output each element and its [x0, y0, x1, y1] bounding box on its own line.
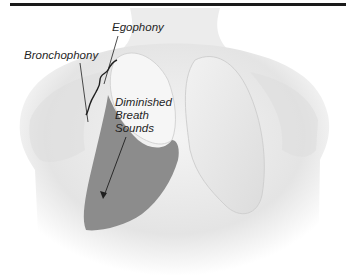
egophony-label: Egophony: [112, 21, 164, 34]
torso-illustration: [0, 0, 346, 276]
diminished-line-1: Diminished: [115, 96, 172, 109]
diminished-breath-sounds-label: Diminished Breath Sounds: [115, 96, 172, 135]
chest-diagram: Egophony Bronchophony Diminished Breath …: [0, 0, 346, 276]
diminished-line-2: Breath: [115, 109, 172, 122]
bronchophony-label: Bronchophony: [24, 49, 98, 62]
diminished-line-3: Sounds: [115, 122, 172, 135]
